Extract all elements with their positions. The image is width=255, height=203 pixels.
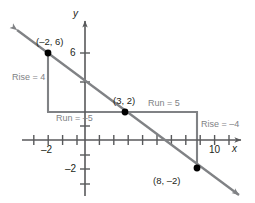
point-label-neg2-6: (–2, 6) <box>36 37 63 47</box>
x-tick-label-10: 10 <box>209 145 220 155</box>
annotation-run-left: Run = –5 <box>56 114 93 123</box>
annotation-rise-left: Rise = 4 <box>12 73 45 82</box>
y-axis-label: y <box>73 9 78 19</box>
point-3-2 <box>122 109 129 116</box>
annotation-run-right: Run = 5 <box>148 99 180 108</box>
axes-group <box>22 21 241 196</box>
y-tick-label-neg2: –2 <box>65 164 76 174</box>
point-label-3-2: (3, 2) <box>113 96 135 106</box>
x-axis-label: x <box>232 144 237 154</box>
y-tick-label-6: 6 <box>70 48 76 58</box>
annotation-rise-right: Rise = –4 <box>201 120 239 129</box>
point-label-8-neg2: (8, –2) <box>153 176 180 186</box>
point-8-neg2 <box>194 165 201 172</box>
x-tick-label-neg2: –2 <box>41 145 52 155</box>
point-neg2-6 <box>45 50 52 57</box>
graph-figure: y x –2 10 6 –2 (–2, 6) (3, 2) (8, –2) Ri… <box>0 0 255 203</box>
